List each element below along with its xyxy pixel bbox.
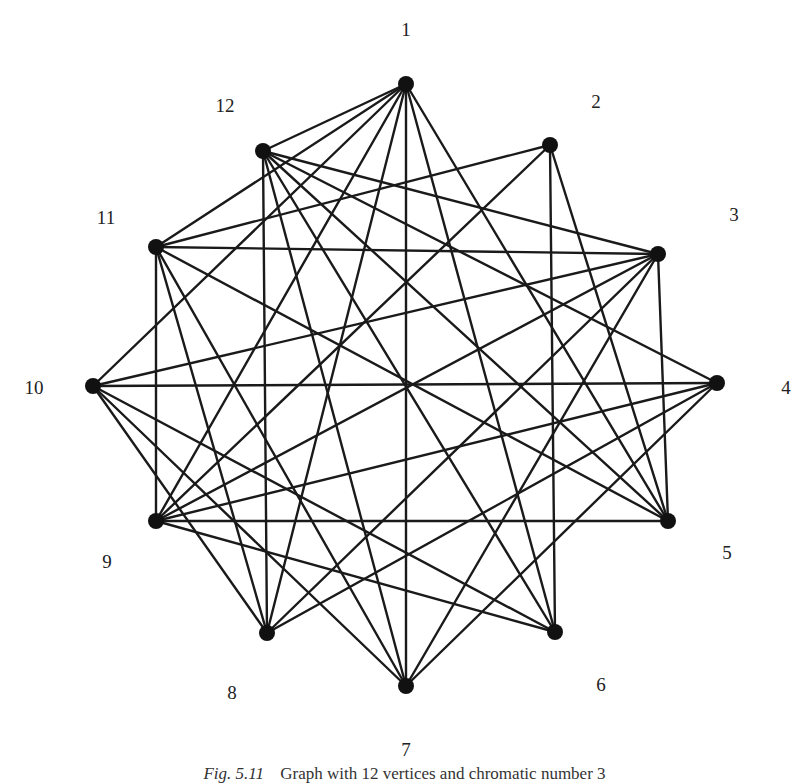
edge-1-6: [406, 84, 555, 632]
edges-layer: [93, 84, 717, 686]
edge-1-8: [267, 84, 406, 633]
vertex-5: [660, 513, 676, 529]
edge-1-12: [263, 84, 406, 151]
vertex-3: [650, 246, 666, 262]
vertex-label-5: 5: [722, 542, 732, 563]
vertex-11: [148, 239, 164, 255]
vertex-9: [148, 513, 164, 529]
vertex-1: [398, 76, 414, 92]
edge-3-7: [406, 254, 658, 686]
edge-1-10: [93, 84, 406, 386]
figure-caption: Fig. 5.11 Graph with 12 vertices and chr…: [0, 764, 809, 784]
vertex-label-11: 11: [97, 207, 115, 228]
vertex-label-9: 9: [102, 551, 112, 572]
vertex-8: [259, 625, 275, 641]
vertex-2: [542, 137, 558, 153]
caption-text: Graph with 12 vertices and chromatic num…: [280, 764, 605, 783]
edge-4-12: [263, 151, 717, 383]
edge-6-9: [156, 521, 555, 632]
vertex-label-4: 4: [781, 377, 791, 398]
vertex-label-10: 10: [25, 377, 44, 398]
vertex-label-7: 7: [401, 739, 411, 760]
edge-7-12: [263, 151, 406, 686]
edge-3-8: [267, 254, 658, 633]
vertex-6: [547, 624, 563, 640]
vertex-label-2: 2: [591, 91, 601, 112]
vertex-label-1: 1: [401, 19, 411, 40]
caption-number: Fig. 5.11: [203, 764, 264, 783]
vertex-4: [709, 375, 725, 391]
edge-8-12: [263, 151, 267, 633]
vertex-label-8: 8: [227, 682, 237, 703]
edge-3-12: [263, 151, 658, 254]
vertex-12: [255, 143, 271, 159]
edge-8-10: [93, 386, 267, 633]
vertex-label-6: 6: [596, 674, 606, 695]
vertex-10: [85, 378, 101, 394]
edge-4-7: [406, 383, 717, 686]
vertex-label-3: 3: [729, 204, 739, 225]
edge-2-9: [156, 145, 550, 521]
edge-6-12: [263, 151, 555, 632]
vertex-7: [398, 678, 414, 694]
edge-4-9: [156, 383, 717, 521]
edge-3-5: [658, 254, 668, 521]
vertex-label-12: 12: [216, 95, 235, 116]
edge-2-6: [550, 145, 555, 632]
edge-8-11: [156, 247, 267, 633]
